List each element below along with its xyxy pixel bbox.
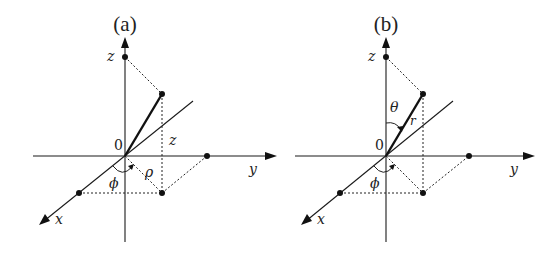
origin-label: 0 bbox=[375, 137, 384, 153]
z-point bbox=[383, 54, 389, 60]
projection-z bbox=[386, 57, 423, 94]
projection-z bbox=[125, 57, 162, 94]
projection-rho bbox=[386, 156, 423, 193]
theta-label: θ bbox=[390, 99, 399, 115]
x-axis-label: x bbox=[317, 211, 325, 227]
r-label: r bbox=[410, 114, 417, 128]
vector-tip-point bbox=[159, 91, 165, 97]
z-axis-label: z bbox=[367, 48, 376, 64]
y-axis-label: y bbox=[509, 161, 519, 177]
x-axis bbox=[306, 101, 453, 221]
xy-projection-point bbox=[420, 190, 426, 196]
panel-b-title: (b) bbox=[374, 12, 399, 36]
phi-label: ϕ bbox=[370, 175, 380, 191]
projection-y bbox=[423, 156, 469, 193]
x-axis-arrow-icon bbox=[39, 214, 50, 225]
origin-label: 0 bbox=[114, 137, 123, 153]
y-axis-arrow-icon bbox=[265, 152, 277, 160]
y-point bbox=[466, 153, 472, 159]
panel-a-cylindrical: (a) 0 z y x z ρ ϕ bbox=[33, 12, 277, 242]
x-point bbox=[337, 190, 343, 196]
panel-a-title: (a) bbox=[113, 12, 136, 36]
phi-arc-arrow-icon bbox=[128, 164, 134, 170]
position-vector bbox=[125, 94, 162, 156]
z-axis-arrow-icon bbox=[382, 37, 390, 48]
projection-rho bbox=[125, 156, 162, 193]
y-point bbox=[204, 153, 210, 159]
z-point bbox=[122, 54, 128, 60]
x-axis-label: x bbox=[55, 211, 63, 227]
theta-arc bbox=[386, 123, 401, 130]
y-axis-arrow-icon bbox=[523, 152, 535, 160]
x-axis bbox=[44, 101, 193, 221]
y-axis-label: y bbox=[248, 161, 258, 177]
projection-y bbox=[162, 156, 207, 193]
height-label: z bbox=[168, 132, 177, 148]
z-axis-arrow-icon bbox=[121, 37, 129, 48]
coordinate-diagrams: (a) 0 z y x z ρ ϕ bbox=[0, 0, 558, 253]
panel-b-spherical: (b) 0 z y x θ r bbox=[295, 12, 535, 242]
phi-label: ϕ bbox=[109, 175, 119, 191]
x-axis-arrow-icon bbox=[301, 214, 312, 225]
phi-arc-arrow-icon bbox=[389, 164, 395, 170]
xy-projection-point bbox=[159, 190, 165, 196]
vector-tip-point bbox=[420, 91, 426, 97]
rho-label: ρ bbox=[144, 164, 154, 180]
x-point bbox=[76, 190, 82, 196]
z-axis-label: z bbox=[106, 48, 115, 64]
